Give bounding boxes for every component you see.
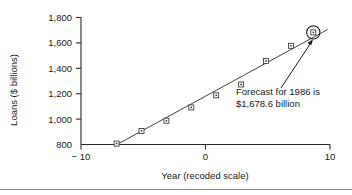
forecast-annotation-line2: $1,678.6 billion <box>236 98 300 109</box>
y-tick-label-1000: 1,000 <box>48 114 72 125</box>
x-axis-title: Year (recoded scale) <box>161 170 248 181</box>
data-point-marker <box>264 59 269 64</box>
y-tick-label-1800: 1,800 <box>48 12 72 23</box>
data-point-marker <box>214 93 219 98</box>
y-tick-label-1400: 1,400 <box>48 63 72 74</box>
y-tick-label-800: 800 <box>56 139 72 150</box>
data-point-marker <box>189 105 194 110</box>
data-point-marker <box>288 43 293 48</box>
x-tick-label-10: 10 <box>325 151 336 162</box>
loans-forecast-scatter-chart: Loans ($ billions) 1,800 1,600 1,400 1,2… <box>0 0 352 195</box>
forecast-leader-line <box>281 42 311 88</box>
x-tick-label-minus10: − 10 <box>72 151 91 162</box>
forecast-annotation-line1: Forecast for 1986 is <box>236 86 320 97</box>
data-point-marker <box>114 141 119 146</box>
data-point-marker <box>139 128 144 133</box>
y-tick-label-1200: 1,200 <box>48 88 72 99</box>
chart-figure: Loans ($ billions) 1,800 1,600 1,400 1,2… <box>0 0 352 195</box>
y-axis-title: Loans ($ billions) <box>8 54 19 126</box>
data-point-marker <box>164 118 169 123</box>
x-tick-label-0: 0 <box>203 151 208 162</box>
y-tick-label-1600: 1,600 <box>48 37 72 48</box>
